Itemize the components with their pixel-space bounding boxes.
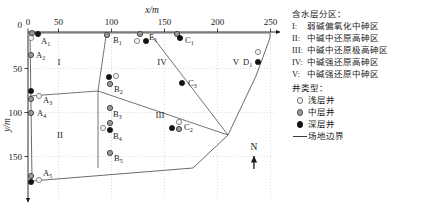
y-tick-0: 0: [18, 20, 23, 30]
site-zonation-map: 0 50 100 150 200 250 0 50 100 150 x/m y/…: [0, 0, 290, 215]
well-label-B2: B2: [114, 84, 123, 95]
legend-well-deep: 深层井: [292, 120, 430, 129]
legend-well-text: 深层井: [308, 120, 335, 129]
shallow-well-icon[interactable]: [100, 125, 105, 130]
x-axis-label: x/m: [144, 5, 159, 15]
figure-root: 0 50 100 150 200 250 0 50 100 150 x/m y/…: [0, 0, 430, 215]
middle-well-icon[interactable]: [107, 81, 112, 86]
legend-panel: 含水层分区： I: 弱碱偏氧化中砷区 II: 中碱中还原高砷区 III: 中碱中…: [292, 10, 430, 210]
well-label-B1: B1: [113, 35, 122, 46]
x-tick-100: 100: [105, 17, 119, 27]
zone-label-III: III: [156, 110, 165, 120]
deep-well-icon[interactable]: [255, 59, 260, 64]
middle-well-icon[interactable]: [107, 105, 112, 110]
site-boundary: [30, 33, 270, 181]
middle-well-icon[interactable]: [107, 120, 112, 125]
zone-label-II: II: [57, 130, 63, 140]
shallow-well-icon[interactable]: [255, 49, 260, 54]
well-label-A5: A5: [43, 168, 52, 179]
x-tick-250: 250: [264, 17, 278, 27]
well-labels: A1 A2 A3 A4 A5 B1 B2 B3 B4 B5 C1 C2 C3 D…: [36, 32, 252, 179]
deep-well-icon[interactable]: [107, 127, 112, 132]
legend-zone-II: II: 中碱中还原高砷区: [292, 34, 430, 43]
well-label-A1: A1: [41, 36, 50, 47]
boundary-line-icon: [292, 136, 308, 137]
legend-zone-text: 中碱强还原中砷区: [307, 70, 379, 79]
well-label-E1: E1: [149, 32, 157, 43]
deep-well-icon[interactable]: [179, 80, 184, 85]
legend-well-text: 浅层井: [308, 96, 335, 105]
middle-well-icon[interactable]: [28, 110, 33, 115]
zone-label-IV: IV: [157, 57, 167, 67]
legend-zone-IV: IV: 中碱强还原高砷区: [292, 58, 430, 67]
well-label-A4: A4: [37, 108, 46, 119]
zone-divider-lines: [30, 36, 228, 168]
deep-well-icon[interactable]: [143, 38, 148, 43]
middle-well-icon[interactable]: [137, 31, 142, 36]
middle-well-icon[interactable]: [107, 150, 112, 155]
middle-well-icon[interactable]: [28, 173, 33, 178]
legend-zone-roman: V:: [292, 70, 307, 79]
legend-zone-roman: IV:: [292, 58, 307, 67]
legend-well-text: 中层井: [308, 108, 335, 117]
legend-zone-text: 中碱中还原高砷区: [307, 34, 379, 43]
deep-well-icon[interactable]: [35, 31, 40, 36]
deep-well-icon[interactable]: [28, 179, 33, 184]
well-label-A2: A2: [36, 50, 45, 61]
legend-zone-I: I: 弱碱偏氧化中砷区: [292, 22, 430, 31]
shallow-well-icon[interactable]: [134, 38, 139, 43]
deep-well-icon[interactable]: [177, 35, 182, 40]
y-tick-150: 150: [9, 152, 23, 162]
well-label-C1: C1: [185, 35, 194, 46]
x-tick-200: 200: [211, 17, 225, 27]
shallow-well-icon[interactable]: [36, 93, 41, 98]
deep-well-icon[interactable]: [28, 88, 33, 93]
deep-well-icon[interactable]: [169, 125, 174, 130]
well-label-A3: A3: [43, 95, 52, 106]
map-svg: 0 50 100 150 200 250 0 50 100 150 x/m y/…: [0, 0, 290, 215]
middle-well-icon[interactable]: [28, 96, 33, 101]
shallow-well-icon[interactable]: [176, 119, 181, 124]
zone-label-V: V: [233, 57, 240, 67]
x-tick-150: 150: [158, 17, 172, 27]
deep-well-icon[interactable]: [106, 74, 111, 79]
well-label-B3: B3: [113, 109, 122, 120]
middle-well-icon: [292, 109, 308, 116]
well-label-C3: C3: [188, 78, 197, 89]
well-label-B5: B5: [114, 153, 123, 164]
middle-well-icon[interactable]: [176, 126, 181, 131]
well-markers: [28, 30, 260, 184]
north-label: N: [251, 142, 258, 152]
shallow-well-icon[interactable]: [113, 73, 118, 78]
legend-zone-roman: II:: [292, 34, 307, 43]
legend-wells-title: 井类型：: [292, 84, 430, 93]
zone-label-I: I: [58, 57, 61, 67]
middle-well-icon[interactable]: [104, 32, 109, 37]
legend-boundary: 场地边界: [292, 132, 430, 141]
x-tick-0: 0: [26, 17, 31, 27]
legend-zone-text: 弱碱偏氧化中砷区: [307, 22, 379, 31]
shallow-well-icon: [292, 97, 308, 104]
shallow-well-icon[interactable]: [28, 35, 33, 40]
deep-well-icon: [292, 121, 308, 128]
legend-zone-V: V: 中碱强还原中砷区: [292, 70, 430, 79]
legend-zone-text: 中碱中还原极高砷区: [307, 46, 388, 55]
legend-zone-text: 中碱强还原高砷区: [307, 58, 379, 67]
legend-zone-III: III: 中碱中还原极高砷区: [292, 46, 430, 55]
well-label-C2: C2: [184, 122, 193, 133]
middle-well-icon[interactable]: [29, 30, 34, 35]
legend-zone-roman: I:: [292, 22, 307, 31]
zone-labels: I II III IV V: [57, 57, 240, 140]
axis-tick-labels: 0 50 100 150 200 250 0 50 100 150: [9, 17, 278, 162]
legend-well-shallow: 浅层井: [292, 96, 430, 105]
legend-well-middle: 中层井: [292, 108, 430, 117]
y-axis: [25, 32, 29, 202]
legend-boundary-text: 场地边界: [308, 132, 344, 141]
shallow-well-icon[interactable]: [36, 177, 41, 182]
well-label-B4: B4: [113, 131, 122, 142]
legend-zone-roman: III:: [292, 46, 307, 55]
well-label-D1: D1: [243, 57, 252, 68]
x-tick-50: 50: [54, 17, 64, 27]
legend-zones-title: 含水层分区：: [292, 10, 430, 19]
middle-well-icon[interactable]: [28, 52, 33, 57]
